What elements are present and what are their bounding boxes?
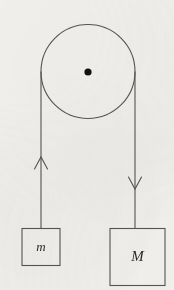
mass-block-small: m [22,229,60,266]
rope-group-left [35,72,48,230]
mass-block-large: M [110,229,165,286]
mass-block-large-label: M [130,248,145,264]
diagram-canvas: m M [0,0,174,290]
mass-block-small-label: m [36,239,45,254]
pulley-group [41,25,135,119]
pulley-axle-dot [84,68,91,75]
atwood-machine-figure: m M [0,0,174,290]
rope-group-right [129,72,142,230]
